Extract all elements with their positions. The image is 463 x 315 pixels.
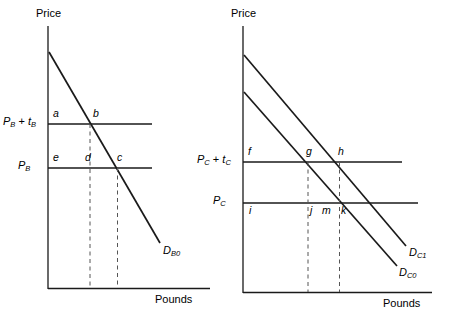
point-label-m: m [322,205,331,216]
left-upper-price-sub: B [10,120,15,129]
figure-canvas [0,0,463,315]
curve-label-DC0-main: D [399,266,407,278]
point-label-a: a [53,108,59,119]
demand-curve-DB0 [49,52,160,243]
demand-curve-DC0 [244,92,397,266]
left-panel-axes [48,26,210,289]
curve-label-DC1-sub: C1 [417,251,427,260]
point-label-e: e [53,152,59,163]
curve-label-DB0: DB0 [163,245,180,256]
point-label-i: i [249,205,251,216]
left-price-lines [48,124,152,168]
left-dashed-lines [90,124,118,288]
right-x-axis-label: Pounds [383,298,420,309]
right-panel-axes [243,26,432,293]
point-label-j: j [310,205,312,216]
right-upper-price-sub: C [204,158,209,167]
point-label-h: h [338,146,344,157]
point-label-g: g [306,146,312,157]
right-lower-price-label: PC [213,195,226,206]
left-x-axis-label: Pounds [155,294,192,305]
curve-label-DC1: DC1 [409,247,427,258]
left-demand-curve-group [49,52,160,243]
point-label-k: k [341,205,346,216]
point-label-b: b [93,108,99,119]
right-upper-price-label: PC + tC [197,154,231,165]
curve-label-DB0-sub: B0 [171,249,180,258]
right-price-lines [243,162,418,203]
right-upper-price-tax-sub: C [225,158,230,167]
curve-label-DC0-sub: C0 [407,271,417,280]
left-lower-price-label: PB [18,160,30,171]
curve-label-DC0: DC0 [399,267,417,278]
right-demand-curves-group [244,55,406,266]
economics-figure: Price Pounds PB + tB PB a b e d c DB0 Pr… [0,0,463,315]
left-upper-price-label: PB + tB [3,116,36,127]
left-lower-price-sub: B [25,164,30,173]
left-upper-price-tax-sub: B [31,120,36,129]
left-upper-price-op: + [15,115,28,127]
right-lower-price-sub: C [220,199,225,208]
curve-label-DC1-main: D [409,246,417,258]
right-y-axis-label: Price [231,8,256,19]
point-label-d: d [85,152,91,163]
right-upper-price-op: + [210,153,223,165]
left-y-axis-label: Price [36,8,61,19]
point-label-c: c [117,152,122,163]
point-label-f: f [248,146,251,157]
demand-curve-DC1 [244,55,406,246]
curve-label-DB0-main: D [163,244,171,256]
